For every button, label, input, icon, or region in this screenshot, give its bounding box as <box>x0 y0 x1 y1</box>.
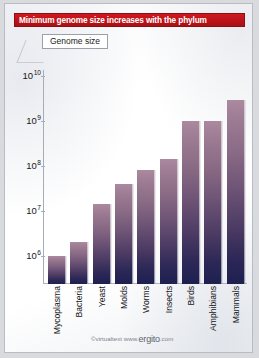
chart-card: Minimum genome size increases with the p… <box>4 3 253 353</box>
x-label-slot: Mycoplasma <box>46 286 68 342</box>
bar-mycoplasma <box>48 256 66 284</box>
bar-mammals <box>227 100 245 284</box>
y-axis-tickmark-8 <box>41 166 45 167</box>
bar-slot <box>113 66 135 284</box>
y-tick-mantissa: 10 <box>23 70 34 81</box>
y-axis-tickmark-7 <box>41 211 45 212</box>
x-label-slot: Molds <box>113 286 135 342</box>
y-tick-mantissa: 10 <box>26 205 37 216</box>
y-axis-tick-label-8: 108 <box>26 161 41 171</box>
y-axis-tick-label-9: 109 <box>26 116 41 126</box>
bar-slot <box>202 66 224 284</box>
x-axis-label-mycoplasma: Mycoplasma <box>53 286 62 334</box>
x-axis-label-birds: Birds <box>187 286 196 306</box>
bar-slot <box>135 66 157 284</box>
bar-series <box>46 66 247 284</box>
y-tick-mantissa: 10 <box>26 250 37 261</box>
plot-area: 1010109108107106 <box>46 66 247 284</box>
x-label-slot: Insects <box>157 286 179 342</box>
x-axis-label-mammals: Mammals <box>231 286 240 323</box>
y-axis-tick-label-10: 1010 <box>23 71 41 81</box>
bar-amphibians <box>204 121 222 284</box>
bar-slot <box>91 66 113 284</box>
x-label-slot: Mammals <box>224 286 246 342</box>
x-label-slot: Yeast <box>91 286 113 342</box>
bar-slot <box>224 66 246 284</box>
y-axis-tickmark-9 <box>41 121 45 122</box>
legend-genome-size: Genome size <box>42 34 108 49</box>
bar-birds <box>182 121 200 284</box>
bar-molds <box>115 184 133 284</box>
x-axis-label-amphibians: Amphibians <box>209 286 218 331</box>
x-label-slot: Birds <box>180 286 202 342</box>
page-title: Minimum genome size increases with the p… <box>19 16 207 24</box>
x-axis-label-insects: Insects <box>164 286 173 313</box>
footer-brand: ergito <box>139 334 160 344</box>
bar-worms <box>137 170 155 284</box>
y-tick-mantissa: 10 <box>26 160 37 171</box>
y-axis-tickmark-6 <box>41 256 45 257</box>
bar-insects <box>160 159 178 284</box>
y-tick-mantissa: 10 <box>26 115 37 126</box>
bar-slot <box>68 66 90 284</box>
chart-title-banner: Minimum genome size increases with the p… <box>14 13 245 27</box>
footer-credit: ©virtualtext www.ergito.com <box>91 335 173 344</box>
x-axis-label-bacteria: Bacteria <box>75 286 84 318</box>
y-axis-tickmark-10 <box>41 76 45 77</box>
y-tick-exponent: 10 <box>34 69 41 76</box>
footer-copyright: ©virtualtext www. <box>91 335 139 342</box>
x-label-slot: Amphibians <box>202 286 224 342</box>
footer-tld: .com <box>160 335 173 342</box>
x-axis-label-worms: Worms <box>142 286 151 313</box>
bar-bacteria <box>70 242 88 284</box>
legend-label: Genome size <box>50 37 100 46</box>
x-axis-label-molds: Molds <box>120 286 129 309</box>
x-axis-label-yeast: Yeast <box>97 286 106 307</box>
bar-slot <box>180 66 202 284</box>
x-label-slot: Bacteria <box>68 286 90 342</box>
bar-slot <box>157 66 179 284</box>
y-axis-line <box>43 70 44 284</box>
y-axis-tick-label-7: 107 <box>26 206 41 216</box>
bar-slot <box>46 66 68 284</box>
bar-yeast <box>93 204 111 284</box>
y-axis-tick-label-6: 106 <box>26 251 41 261</box>
